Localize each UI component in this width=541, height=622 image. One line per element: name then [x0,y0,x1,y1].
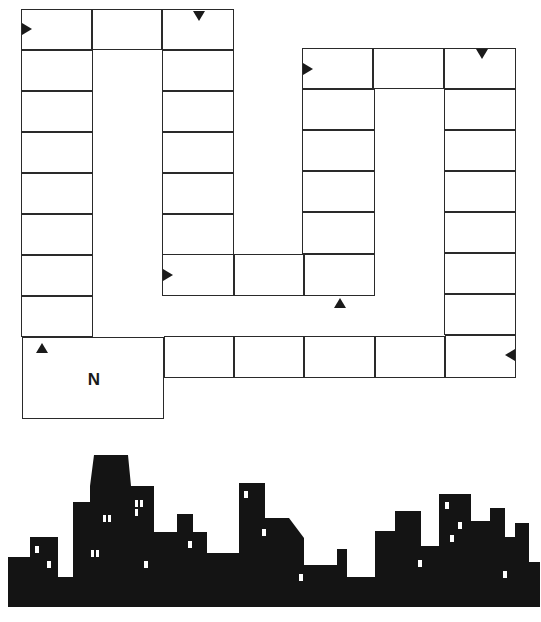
board-cell [21,173,93,214]
board-cell [375,336,445,378]
board-cell [234,254,304,296]
lit-window [91,550,94,557]
board-cell [21,214,93,255]
lit-window [135,500,138,507]
board-cell [21,255,93,296]
arrow-up-icon [334,298,346,308]
board-cell [302,212,375,254]
arrow-left-icon [505,349,515,361]
board-cell [302,130,375,171]
lit-window [103,515,106,522]
lit-window [144,561,148,568]
lit-window [445,502,449,509]
board-cell [304,336,375,378]
board-cell [162,173,234,214]
board-cell [302,171,375,212]
lit-window [96,550,99,557]
board-cell [21,132,93,173]
board-cell [444,89,516,130]
lit-window [135,509,138,516]
lit-window [108,515,111,522]
arrow-down-icon [476,49,488,59]
board-cell [444,130,516,171]
board-cell [162,91,234,132]
lit-window [299,574,303,581]
board-cell [21,91,93,132]
arrow-right-icon [22,23,32,35]
board-cell [162,50,234,91]
arrow-up-icon [36,343,48,353]
board-cell [21,296,93,337]
lit-window [458,522,462,529]
arrow-right-icon [303,63,313,75]
lit-window [35,546,39,553]
board-cell [444,294,516,335]
board-cell [234,336,304,378]
lit-window [450,535,454,542]
lit-window [188,541,192,548]
skyline-buildings [8,455,540,608]
city-skyline-silhouette [0,440,541,622]
board-cell [373,48,444,89]
start-label: N [88,370,100,390]
lit-window [418,560,422,567]
board-cell [304,254,375,296]
lit-window [47,561,51,568]
board-cell [21,50,93,91]
board-cell [444,171,516,212]
board-cell [444,212,516,253]
lit-window [244,491,248,498]
arrow-right-icon [163,269,173,281]
arrow-down-icon [193,11,205,21]
lit-window [262,529,266,536]
lit-window [140,500,143,507]
board-cell [444,253,516,294]
board-cell [162,132,234,173]
board-cell [164,336,234,378]
board-cell [92,9,162,50]
board-cell [162,214,234,255]
board-cell [302,89,375,130]
lit-window [503,571,507,578]
